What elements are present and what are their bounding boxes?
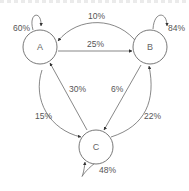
- cropped-top-text: [0, 0, 189, 3]
- edge-A-A: [32, 15, 41, 30]
- edge-C-C: [82, 162, 95, 176]
- edge-label-B-B: 84%: [168, 23, 185, 33]
- edge-B-B: [153, 15, 167, 29]
- edge-C-A: [50, 63, 87, 130]
- edge-label-C-C: 48%: [99, 165, 116, 175]
- node-label: A: [37, 42, 43, 52]
- markov-diagram: A B C 60% 84% 48% 10% 25% 30% 15% 6% 22%: [0, 0, 189, 191]
- edge-label-B-C: 6%: [111, 84, 124, 94]
- edge-label-C-B: 22%: [144, 111, 161, 121]
- edge-label-B-A: 10%: [88, 11, 105, 21]
- node-C: C: [79, 130, 113, 164]
- edge-C-B: [111, 66, 151, 137]
- node-label: C: [93, 142, 100, 152]
- node-B: B: [133, 30, 167, 64]
- edge-label-A-B: 25%: [87, 39, 104, 49]
- node-label: B: [147, 42, 153, 52]
- edge-A-C: [39, 70, 81, 137]
- edge-B-C: [104, 65, 141, 130]
- edge-label-A-A: 60%: [13, 23, 30, 33]
- edge-label-C-A: 30%: [69, 84, 86, 94]
- edge-label-A-C: 15%: [35, 111, 52, 121]
- node-A: A: [23, 30, 57, 64]
